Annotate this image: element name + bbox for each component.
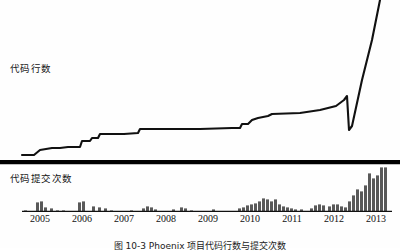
commit-bar <box>258 201 261 211</box>
lines-of-code-line-chart <box>0 0 400 165</box>
axis-year-label: 2012 <box>324 213 344 224</box>
commit-bar <box>380 167 383 211</box>
commit-bar <box>40 201 43 211</box>
commit-bar <box>352 195 355 211</box>
commits-label: 代码提交次数 <box>10 171 72 185</box>
axis-year-label: 2005 <box>30 213 50 224</box>
commit-bar <box>364 185 367 211</box>
commit-bar <box>356 189 359 211</box>
commit-bar <box>270 201 273 211</box>
commit-bar <box>376 175 379 211</box>
axis-year-label: 2010 <box>240 213 260 224</box>
commit-bar <box>246 205 249 211</box>
axis-year-label: 2008 <box>156 213 176 224</box>
commit-bar <box>82 201 85 211</box>
commit-bar <box>274 199 277 211</box>
commit-bar <box>332 204 335 211</box>
lines-of-code-label: 代码行数 <box>10 61 52 75</box>
commit-bar <box>78 202 81 211</box>
commit-bar <box>348 201 351 211</box>
commit-bar <box>250 204 253 211</box>
axis-year-label: 2007 <box>114 213 134 224</box>
commit-bar <box>372 178 375 211</box>
commit-bar <box>254 203 257 211</box>
axis-year-label: 2006 <box>72 213 92 224</box>
commit-bar <box>328 206 331 211</box>
commit-bar <box>368 173 371 211</box>
commit-bar <box>262 198 265 211</box>
commit-bar <box>278 204 281 211</box>
commit-bar <box>384 167 387 211</box>
commit-bar <box>318 204 321 211</box>
commit-bar <box>340 206 343 211</box>
commit-bar <box>146 206 149 211</box>
commit-bar <box>92 206 95 211</box>
commit-bar <box>322 205 325 211</box>
commit-bar <box>314 205 317 211</box>
axis-year-label: 2011 <box>282 213 302 224</box>
commit-bar <box>336 204 339 211</box>
commit-bar <box>266 199 269 211</box>
commit-bar <box>36 202 39 211</box>
axis-year-label: 2013 <box>366 213 386 224</box>
commit-bars-group <box>24 167 387 211</box>
lines-of-code-trend-line <box>22 0 380 155</box>
commit-bar <box>282 206 285 211</box>
figure-caption: 图 10-3 Phoenix 项目代码行数与提交次数 <box>0 239 400 252</box>
commit-bar <box>360 191 363 211</box>
axis-year-label: 2009 <box>198 213 218 224</box>
